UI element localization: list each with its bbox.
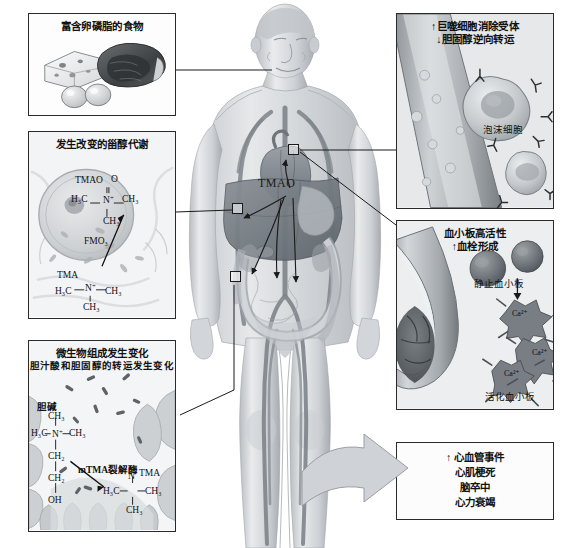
panel-platelet-title-2: ↑血栓形成 xyxy=(397,240,553,253)
panel-microbiome-changes: 微生物组成发生变化 胆汁酸和胆固醇的转运发生变化 xyxy=(28,340,176,532)
outcome-flow-arrow xyxy=(300,432,410,528)
tmao-center-label: TMAO xyxy=(258,176,295,191)
outcome-line-4: 心力衰竭 xyxy=(397,495,553,510)
panel-macrophage-foam-cell: ↑巨噬细胞消除受体 ↓胆固醇逆向转运 泡沫细胞 xyxy=(396,13,554,209)
sterol-tmao-methyl-right: CH₃ xyxy=(122,194,139,204)
panel-sterol-title: 发生改变的甾醇代谢 xyxy=(29,138,175,151)
sterol-tmao-label: TMAO xyxy=(75,175,103,185)
panel-platelet-hyperreactivity: 血小板高活性 ↑血栓形成 静止血小板 活化血小板 Ca²⁺ Ca²⁺ Ca²⁺ xyxy=(396,220,554,410)
sterol-tma-methyl-left: H₃C xyxy=(55,286,72,296)
outcome-line-1: ↑ 心血管事件 xyxy=(397,450,553,465)
microbiome-choline-methyl-left: H₃C xyxy=(31,428,48,438)
sterol-tmao-oxygen: O xyxy=(111,174,118,184)
panel-food-title: 富含卵磷脂的食物 xyxy=(29,20,175,33)
sterol-tmao-nitrogen: N+ xyxy=(103,194,114,205)
microbiome-choline-hydroxyl: OH xyxy=(48,495,62,505)
panel-cardiovascular-outcomes: ↑ 心血管事件 心肌梗死 脑卒中 心力衰竭 xyxy=(396,442,554,520)
resting-platelet-callout: 静止血小板 xyxy=(474,276,524,290)
calcium-ion-label-3: Ca²⁺ xyxy=(504,369,520,378)
outcome-line-3: 脑卒中 xyxy=(397,480,553,495)
microbiome-tma-nitrogen: N xyxy=(128,471,135,481)
microbiome-tma-methyl-right: CH₃ xyxy=(145,486,162,496)
panel-macrophage-title-2: ↓胆固醇逆向转运 xyxy=(397,33,553,46)
figure-canvas: TMAO 富含卵磷脂的食物 xyxy=(0,0,564,548)
connector-square-gut xyxy=(230,271,241,282)
microbiome-choline-ch2-b: CH₂ xyxy=(48,473,65,483)
microbiome-choline-methyl-top: CH₃ xyxy=(48,411,65,421)
outcome-line-2: 心肌梗死 xyxy=(397,465,553,480)
sterol-tmao-methyl-down: CH₃ xyxy=(103,216,120,226)
sterol-tma-nitrogen: N+ xyxy=(85,282,96,293)
microbiome-tma-label: TMA xyxy=(139,468,160,478)
panel-microbiome-title-1: 微生物组成发生变化 xyxy=(29,347,175,360)
sterol-tma-methyl-right: CH₃ xyxy=(105,286,122,296)
connector-square-heart xyxy=(288,144,299,155)
microbiome-tma-methyl-down: CH₃ xyxy=(126,505,143,515)
sterol-fmo3-enzyme: FMO₃ xyxy=(84,236,108,246)
microbiome-choline-ch2-a: CH₂ xyxy=(48,451,65,461)
sterol-tmao-methyl-left: H₃C xyxy=(71,194,88,204)
sterol-tma-methyl-down: CH₃ xyxy=(83,302,100,312)
activated-platelet-callout: 活化血小板 xyxy=(485,389,535,403)
microbiome-choline-nitrogen: N+ xyxy=(52,428,63,439)
sterol-tma-label: TMA xyxy=(57,270,78,280)
panel-macrophage-title-1: ↑巨噬细胞消除受体 xyxy=(397,20,553,33)
panel-lecithin-rich-foods: 富含卵磷脂的食物 xyxy=(28,13,176,116)
calcium-ion-label-1: Ca²⁺ xyxy=(512,309,528,318)
foam-cell-callout: 泡沫细胞 xyxy=(483,122,523,136)
microbiome-choline-methyl-right: CH₃ xyxy=(69,428,86,438)
panel-altered-sterol-metabolism: 发生改变的甾醇代谢 xyxy=(28,131,176,319)
connector-square-liver xyxy=(232,203,243,214)
hepatocyte-illustration xyxy=(29,132,175,317)
microbiome-tma-methyl-left: H₃C xyxy=(103,486,120,496)
panel-platelet-title-1: 血小板高活性 xyxy=(397,227,553,240)
calcium-ion-label-2: Ca²⁺ xyxy=(532,348,548,357)
panel-microbiome-title-2: 胆汁酸和胆固醇的转运发生变化 xyxy=(29,360,175,373)
